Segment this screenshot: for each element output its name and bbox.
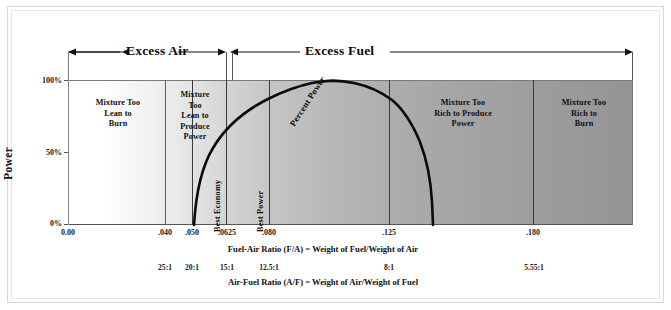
ratio-tick-555: 5.55:1 (512, 263, 556, 272)
x-axis-title-fuel-air: Fuel-Air Ratio (F/A) = Weight of Fuel/We… (0, 244, 671, 254)
ratio-tick-15: 15:1 (205, 263, 249, 272)
x-tick-125: .125 (371, 228, 407, 237)
x-tick-0: 0.00 (50, 228, 86, 237)
x-axis-title-fuel-air-text: Fuel-Air Ratio (F/A) = Weight of Fuel/We… (228, 244, 418, 254)
x-tick-0625: .0625 (205, 228, 249, 237)
x-axis-title-air-fuel-text: Air-Fuel Ratio (A/F) = Weight of Air/Wei… (228, 277, 418, 287)
y-tick-50: 50% (28, 148, 62, 157)
ratio-tick-8: 8:1 (371, 263, 407, 272)
plot-area: Mixture Too Lean to Burn Mixture Too Lea… (68, 80, 633, 225)
x-tick-180: .180 (515, 228, 551, 237)
y-tick-0: 0% (28, 219, 62, 228)
chart-figure: Excess Air Excess Fuel Power 100% 50% 0%… (0, 0, 671, 310)
x-axis-title-air-fuel: Air-Fuel Ratio (A/F) = Weight of Air/Wei… (0, 277, 671, 287)
excess-air-bracket-label: Excess Air (126, 43, 188, 59)
y-tick-100: 100% (28, 76, 62, 85)
x-tick-080: .080 (251, 228, 287, 237)
excess-fuel-bracket-label: Excess Fuel (305, 43, 374, 59)
y-axis-title: Power (2, 147, 14, 180)
ratio-tick-125: 12.5:1 (249, 263, 289, 272)
percent-power-curve (68, 80, 633, 225)
